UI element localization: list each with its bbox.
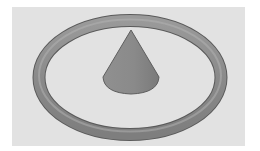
scene-render (0, 0, 260, 151)
cone (103, 30, 159, 94)
